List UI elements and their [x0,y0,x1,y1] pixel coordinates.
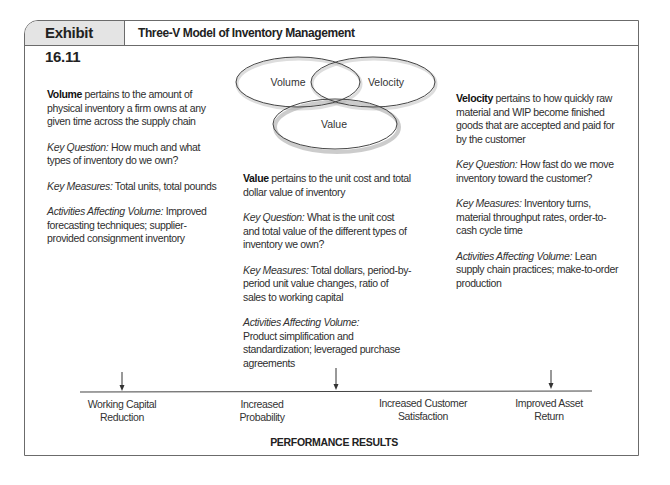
velocity-description: Velocity pertains to how quickly raw mat… [456,92,626,302]
velocity-key-measures-label: Key Measures: [456,197,521,209]
value-description: Value pertains to the unit cost and tota… [243,172,413,382]
results-axis-line [80,391,592,392]
velocity-key-question-label: Key Question: [456,158,517,170]
arrow-down-icon [120,372,125,391]
result-customer-satisfaction: Increased Customer Satisfaction [358,397,488,423]
volume-description: Volume pertains to the amount of physica… [47,88,222,258]
venn-label-value: Value [321,118,347,130]
result-asset-return: Improved Asset Return [484,397,614,423]
volume-key-measures-label: Key Measures: [47,180,112,192]
venn-label-volume: Volume [270,76,305,88]
result-increased-probability: Increased Probability [197,398,327,424]
performance-results-title: PERFORMANCE RESULTS [0,436,669,448]
volume-key-measures: Total units, total pounds [112,180,216,192]
volume-key-question-label: Key Question: [47,141,108,153]
result-working-capital: Working Capital Reduction [57,398,187,424]
value-term: Value [243,172,269,184]
value-definition: pertains to the unit cost and total doll… [243,172,411,198]
velocity-term: Velocity [456,92,493,104]
value-activities-label: Activities Affecting Volume: [243,316,359,328]
value-key-question-label: Key Question: [243,211,304,223]
volume-term: Volume [47,88,82,100]
venn-label-velocity: Velocity [368,76,405,88]
value-activities: Product simplification and standardizati… [243,330,400,369]
velocity-activities-label: Activities Affecting Volume: [456,250,572,262]
volume-activities-label: Activities Affecting Volume: [47,205,163,217]
value-key-measures-label: Key Measures: [243,264,308,276]
arrow-down-icon [549,370,554,389]
